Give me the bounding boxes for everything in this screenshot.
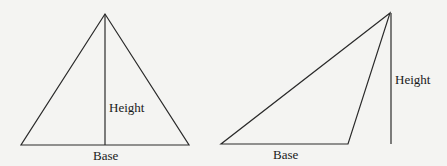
right-height-label: Height xyxy=(395,73,430,86)
triangle-diagram: Height Base Height Base xyxy=(0,0,447,166)
right-base-label: Base xyxy=(273,148,298,161)
triangles-drawing xyxy=(0,0,447,166)
left-height-label: Height xyxy=(109,101,144,114)
right-triangle xyxy=(221,13,390,144)
left-base-label: Base xyxy=(93,149,118,162)
